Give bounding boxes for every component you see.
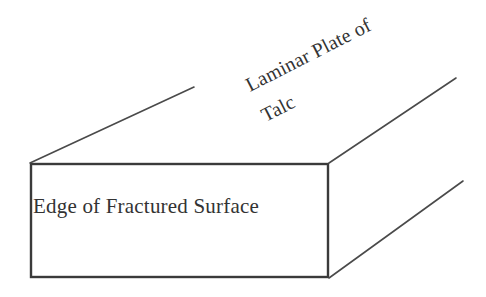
front-face-rectangle xyxy=(31,164,328,277)
talc-plate-diagram: Edge of Fractured Surface Laminar Plate … xyxy=(0,0,486,297)
front-face-label: Edge of Fractured Surface xyxy=(33,194,259,218)
diagram-canvas: Edge of Fractured Surface Laminar Plate … xyxy=(0,0,486,297)
